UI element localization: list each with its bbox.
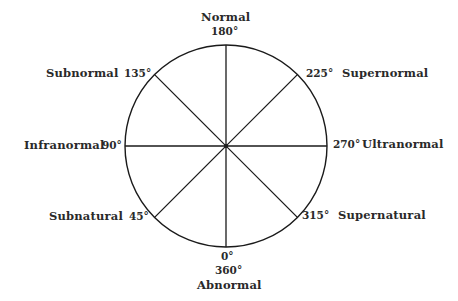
label-subnatural: Subnatural <box>49 209 123 223</box>
label-supernormal: Supernormal <box>342 66 428 80</box>
degree-270: 270° <box>333 138 360 150</box>
label-abnormal: Abnormal <box>197 278 262 292</box>
label-infranormal: Infranormal <box>24 138 104 152</box>
degree-135: 135° <box>124 67 151 79</box>
label-normal: Normal <box>201 10 250 24</box>
circular-normality-diagram: Normal 180° 225° Supernormal 270° Ultran… <box>0 0 458 301</box>
degree-0: 0° <box>221 250 234 262</box>
label-subnormal: Subnormal <box>46 66 119 80</box>
degree-180: 180° <box>211 25 238 37</box>
label-supernatural: Supernatural <box>338 208 426 222</box>
degree-225: 225° <box>306 67 333 79</box>
degree-315: 315° <box>302 209 329 221</box>
label-ultranormal: Ultranormal <box>362 137 444 151</box>
center-point <box>224 144 228 148</box>
degree-360: 360° <box>215 264 242 276</box>
degree-45: 45° <box>129 210 149 222</box>
degree-90: 90° <box>102 139 122 151</box>
